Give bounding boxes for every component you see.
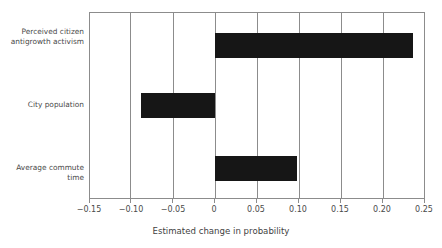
category-label-average-commute-time: Average commute time bbox=[0, 163, 84, 182]
tick-label-0.20: 0.20 bbox=[373, 205, 391, 214]
x-axis-title: Estimated change in probability bbox=[0, 226, 442, 236]
tick-mark-0.05 bbox=[256, 199, 257, 203]
tick-mark--0.10 bbox=[130, 199, 131, 203]
category-label-perceived-citizen-antigrowth-activism: Perceived citizen antigrowth activism bbox=[0, 27, 84, 46]
category-label-line-1: Perceived citizen bbox=[0, 27, 84, 37]
tick-mark-0.25 bbox=[424, 199, 425, 203]
tick-label-0.25: 0.25 bbox=[415, 205, 433, 214]
tick-label--0.05: −0.05 bbox=[161, 205, 186, 214]
bar-city-population bbox=[141, 93, 215, 118]
category-label-line-1: Average commute time bbox=[0, 163, 84, 182]
tick-label-zero: 0 bbox=[211, 205, 216, 214]
tick-mark--0.15 bbox=[89, 199, 90, 203]
tick-mark-zero bbox=[214, 199, 215, 203]
tick-mark-0.20 bbox=[382, 199, 383, 203]
category-label-line-1: City population bbox=[0, 100, 84, 110]
gridline--0.10 bbox=[130, 13, 131, 198]
tick-label-0.10: 0.10 bbox=[289, 205, 307, 214]
tick-mark-0.15 bbox=[340, 199, 341, 203]
bar-perceived-citizen-antigrowth-activism bbox=[215, 33, 413, 58]
bar-average-commute-time bbox=[215, 156, 297, 181]
tick-label--0.15: −0.15 bbox=[77, 205, 102, 214]
tick-label--0.10: −0.10 bbox=[119, 205, 144, 214]
gridline-0.25 bbox=[424, 13, 425, 198]
bar-chart-figure: Perceived citizen antigrowth activism Ci… bbox=[0, 0, 442, 248]
tick-label-0.05: 0.05 bbox=[247, 205, 265, 214]
category-label-line-2: antigrowth activism bbox=[0, 37, 84, 47]
tick-label-0.15: 0.15 bbox=[331, 205, 349, 214]
tick-mark--0.05 bbox=[172, 199, 173, 203]
plot-area bbox=[89, 12, 425, 199]
category-label-city-population: City population bbox=[0, 100, 84, 110]
gridline--0.15 bbox=[89, 13, 90, 198]
tick-mark-0.10 bbox=[298, 199, 299, 203]
